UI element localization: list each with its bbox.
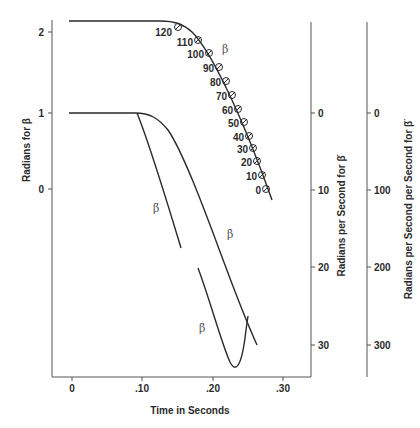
right2-tick-0: 0 bbox=[374, 108, 380, 119]
marker-label-10: 10 bbox=[246, 171, 258, 182]
beta-ddot-label-2: β̈ bbox=[199, 322, 205, 335]
right2-tick-300: 300 bbox=[374, 340, 391, 351]
marker-label-110: 110 bbox=[177, 37, 194, 48]
left-tick-2: 2 bbox=[38, 27, 44, 38]
x-tick-10: .10 bbox=[135, 383, 149, 394]
x-axis-label: Time in Seconds bbox=[150, 405, 230, 416]
marker-label-70: 70 bbox=[216, 91, 228, 102]
beta-dot-label: β̇ bbox=[227, 228, 233, 241]
beta-ddot-early-curve bbox=[137, 113, 181, 248]
x-tick-0: 0 bbox=[69, 383, 75, 394]
right2-tick-200: 200 bbox=[374, 262, 391, 273]
marker-label-120: 120 bbox=[155, 27, 172, 38]
marker-label-50: 50 bbox=[228, 118, 240, 129]
x-tick-20: .20 bbox=[206, 383, 220, 394]
marker-label-60: 60 bbox=[222, 105, 234, 116]
right2-axis-label: Radians per Second per Second for β̈ bbox=[403, 119, 414, 299]
right1-tick-0: 0 bbox=[318, 108, 324, 119]
right2-tick-100: 100 bbox=[374, 185, 391, 196]
chart: 2 1 0 Radians for β 0 .10 .20 .30 Time i… bbox=[0, 0, 420, 428]
right1-tick-10: 10 bbox=[318, 185, 330, 196]
left-tick-0: 0 bbox=[38, 184, 44, 195]
right1-tick-20: 20 bbox=[318, 262, 330, 273]
right1-tick-30: 30 bbox=[318, 340, 330, 351]
marker-label-80: 80 bbox=[210, 77, 222, 88]
marker-label-40: 40 bbox=[233, 132, 245, 143]
marker-label-30: 30 bbox=[237, 144, 249, 155]
beta-ddot-late-curve bbox=[198, 268, 248, 367]
right1-axis-label: Radians per Second for β̇ bbox=[336, 154, 347, 276]
marker-label-0: 0 bbox=[255, 185, 261, 196]
x-tick-30: .30 bbox=[276, 383, 290, 394]
marker-label-90: 90 bbox=[203, 63, 215, 74]
left-axis-label: Radians for β bbox=[21, 118, 32, 182]
marker-label-100: 100 bbox=[187, 49, 204, 60]
marker-label-20: 20 bbox=[241, 157, 253, 168]
left-tick-1: 1 bbox=[38, 108, 44, 119]
beta-label: β bbox=[222, 43, 228, 56]
beta-ddot-label-1: β̈ bbox=[153, 202, 159, 215]
